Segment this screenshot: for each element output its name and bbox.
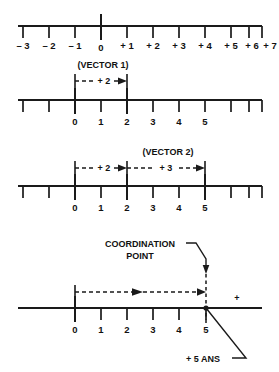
tick-label: 4: [176, 202, 182, 213]
tick-label: + 7: [263, 40, 276, 51]
tick-label: 5: [202, 116, 208, 127]
arrowhead-icon: [132, 288, 143, 295]
tick-label: 4: [176, 324, 182, 335]
tick-label: 4: [176, 116, 182, 127]
vector-2-caption: (VECTOR 2): [143, 147, 194, 157]
arrowhead-icon: [196, 165, 205, 172]
tick-label: 2: [124, 324, 129, 335]
vector-1-dimension: + 2: [75, 74, 127, 88]
panel-resultant: COORDINATION POINT + 0 1 2: [18, 239, 262, 364]
tick-label: + 2: [146, 40, 159, 51]
tick-label: 0: [72, 116, 77, 127]
tick-label: + 1: [120, 40, 134, 51]
tick-label-zero: 0: [98, 42, 103, 53]
tick-label: 0: [72, 202, 77, 213]
answer-leader: [206, 308, 246, 358]
tick-label: 2: [124, 116, 129, 127]
tick-label: 1: [98, 116, 104, 127]
tick-label: – 3: [16, 40, 29, 51]
tick-label: – 1: [68, 40, 82, 51]
tick-label: 3: [150, 324, 155, 335]
tick-label: 3: [150, 202, 155, 213]
tick-label: + 6: [245, 40, 258, 51]
vector-2-second-magnitude-label: + 3: [160, 163, 173, 173]
arrowhead-icon: [203, 265, 210, 274]
vector-addition-diagram: – 3 – 2 – 1 0 + 1 + 2 + 3 + 4 + 5 + 6 + …: [0, 0, 279, 372]
tick-label: 5: [202, 202, 208, 213]
coordination-point-leader: [186, 243, 206, 268]
panel-vector-2: (VECTOR 2) + 2 + 3: [18, 147, 262, 213]
vector-2-first-magnitude-label: + 2: [98, 163, 111, 173]
tick-label: + 5: [224, 40, 238, 51]
arrowhead-icon: [118, 165, 127, 172]
tick-label: 5: [203, 324, 209, 335]
arrowhead-icon: [118, 78, 127, 85]
panel-reference-scale: – 3 – 2 – 1 0 + 1 + 2 + 3 + 4 + 5 + 6 + …: [16, 14, 276, 53]
tick-label: + 3: [172, 40, 185, 51]
tick-label: 3: [150, 116, 155, 127]
tick-label: – 2: [42, 40, 55, 51]
tick-label: 0: [72, 324, 77, 335]
vector-2-dimension-second: + 3: [127, 161, 205, 175]
vector-2-dimension-first: + 2: [75, 161, 127, 175]
coordination-point-label-line1: COORDINATION: [105, 239, 175, 249]
tick-label: 1: [98, 324, 104, 335]
tick-label: + 4: [198, 40, 212, 51]
tick-label: 2: [124, 202, 129, 213]
arrowhead-icon: [197, 288, 206, 295]
tick-label: 1: [98, 202, 104, 213]
panel-vector-1: (VECTOR 1) + 2 0 1 2 3 4: [18, 60, 262, 127]
polarity-sign-label: +: [234, 293, 239, 303]
vector-1-magnitude-label: + 2: [98, 76, 111, 86]
coordination-point-label-line2: POINT: [126, 251, 154, 261]
answer-label: + 5 ANS: [186, 354, 220, 364]
resultant-dimension: [75, 285, 206, 299]
vector-1-caption: (VECTOR 1): [78, 60, 129, 70]
